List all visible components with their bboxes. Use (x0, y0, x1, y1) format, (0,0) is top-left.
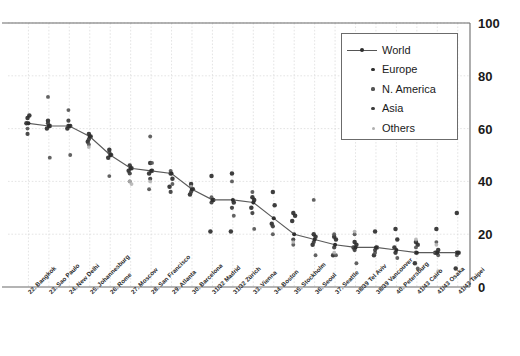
legend-dot-icon (372, 127, 375, 130)
legend-marker-n-america-icon (342, 79, 382, 99)
legend-marker-others-icon (342, 118, 382, 138)
legend-label: Asia (382, 103, 403, 114)
y-tick-40: 40 (478, 175, 492, 188)
legend-marker-europe-icon (342, 60, 382, 80)
legend-item-n-america[interactable]: N. America (342, 79, 457, 99)
legend-dot-icon (371, 68, 375, 72)
y-tick-0: 0 (478, 281, 485, 294)
legend-marker-world-icon (342, 40, 382, 60)
legend-dot-icon (371, 87, 374, 90)
legend-item-others[interactable]: Others (342, 118, 457, 138)
legend-item-europe[interactable]: Europe (342, 60, 457, 80)
y-tick-60: 60 (478, 123, 492, 136)
legend-label: Others (382, 123, 415, 134)
scatter-chart: 100806040200 22. Bangkok23. Sao Paulo24.… (0, 0, 520, 356)
legend-label: Europe (382, 64, 417, 75)
world-trend-line (28, 123, 457, 252)
legend-item-world[interactable]: World (342, 40, 457, 60)
y-tick-80: 80 (478, 70, 492, 83)
legend-label: N. America (382, 84, 436, 95)
series-points-others (87, 145, 440, 273)
chart-legend: WorldEuropeN. AmericaAsiaOthers (341, 33, 458, 140)
legend-item-asia[interactable]: Asia (342, 99, 457, 119)
legend-marker-asia-icon (342, 99, 382, 119)
legend-dot-icon (371, 107, 375, 111)
legend-label: World (382, 45, 411, 56)
y-tick-100: 100 (478, 17, 500, 30)
world-markers (26, 121, 459, 254)
y-tick-20: 20 (478, 228, 492, 241)
legend-dot-icon (360, 48, 365, 53)
